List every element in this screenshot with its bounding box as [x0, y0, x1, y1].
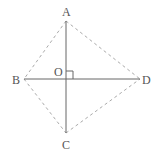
label-b: B — [12, 73, 20, 87]
right-angle-mark — [66, 71, 73, 79]
label-c: C — [62, 138, 70, 152]
label-a: A — [62, 5, 71, 19]
segment-bc — [24, 79, 66, 133]
diagram-canvas: A B C D O — [0, 0, 160, 159]
label-d: D — [142, 73, 151, 87]
segment-ad — [66, 21, 140, 79]
label-o: O — [54, 65, 63, 79]
segment-cd — [66, 79, 140, 133]
